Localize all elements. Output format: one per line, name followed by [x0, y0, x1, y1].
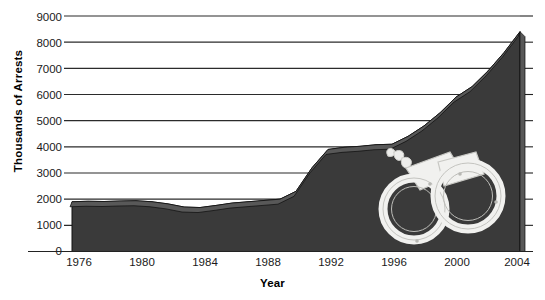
- area-series: [70, 32, 525, 252]
- arrests-area-chart: Thousands of Arrests Year 0 1000 2000 30…: [0, 0, 545, 300]
- area-fill-path: [72, 32, 520, 252]
- plot-canvas: [0, 0, 545, 300]
- area-right-bevel: [520, 32, 525, 252]
